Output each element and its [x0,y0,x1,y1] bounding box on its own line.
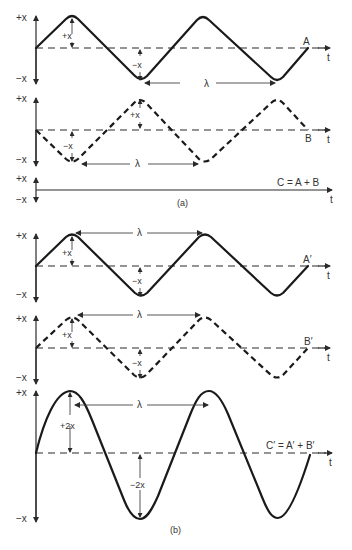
wave-a-prime-plot: +x −x t A′ +x −x λ [16,227,330,302]
wave-b [36,100,308,162]
wave-a-label: A [303,36,310,47]
panel-a-caption: (a) [177,198,188,208]
wave-a-prime-label: A′ [303,254,312,265]
time-label: t [327,134,330,145]
sum-c-prime-label: C′ = A′ + B′ [266,440,315,451]
wave-b-prime-label: B′ [304,336,313,347]
wave-b-prime-plot: +x −x t B′ +x −x λ [16,309,330,384]
wavelength-label: λ [135,158,140,169]
time-label: t [329,457,332,468]
wave-a-prime [36,235,308,296]
amp-minus-label: −x [132,276,142,286]
amp-minus-label: −x [132,358,142,368]
sum-plus-label: +2x [60,421,75,431]
wave-b-label: B [305,133,312,144]
amp-minus-label: −x [132,60,142,70]
axis-top-label: +x [16,93,27,104]
sum-c-plot: +x −x C = A + B t [16,173,333,205]
axis-top-label: +x [16,387,27,398]
axis-top-label: +x [16,230,27,241]
axis-top-label: +x [16,313,27,324]
amp-plus-label: +x [62,248,72,258]
amp-plus-label: +x [62,330,72,340]
panel-b-caption: (b) [170,525,181,535]
axis-top-label: +x [16,173,27,184]
wavelength-label: λ [137,227,142,238]
panel-a: +x −x t A +x −x λ +x −x [16,12,333,208]
amp-plus-label: +x [62,31,72,41]
axis-bottom-label: −x [16,513,27,524]
axis-bottom-label: −x [16,154,27,165]
time-label: t [330,194,333,205]
sum-c-prime-plot: +x −x t C′ = A′ + B′ +2x −2x λ [16,387,332,524]
axis-bottom-label: −x [16,372,27,383]
wavelength-label: λ [137,309,142,320]
axis-bottom-label: −x [16,194,27,205]
axis-top-label: +x [16,12,27,23]
time-label: t [327,270,330,281]
wave-b-plot: +x −x t B +x −x λ [16,93,330,169]
wave-interference-diagram: +x −x t A +x −x λ +x −x [0,0,352,550]
wavelength-label: λ [204,78,209,89]
sum-c-prime-wave [36,391,310,519]
wave-a-plot: +x −x t A +x −x λ [16,12,330,89]
sum-c-label: C = A + B [277,177,320,188]
time-label: t [327,52,330,63]
amp-plus-label: +x [130,110,140,120]
panel-b: +x −x t A′ +x −x λ +x −x t [16,227,332,535]
axis-bottom-label: −x [16,73,27,84]
axis-bottom-label: −x [16,289,27,300]
sum-minus-label: −2x [130,480,145,490]
time-label: t [327,352,330,363]
amp-minus-label: −x [63,141,73,151]
wavelength-label: λ [137,399,142,410]
